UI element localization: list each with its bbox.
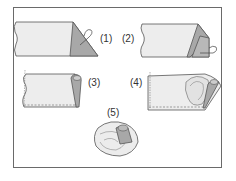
step-3-illustration [23, 70, 81, 107]
step-5-label: (5) [107, 108, 119, 118]
step-2-label: (2) [122, 34, 134, 44]
step-4-illustration [148, 72, 221, 110]
step-2-illustration [141, 24, 217, 57]
step-1-label: (1) [100, 34, 112, 44]
step-5-illustration [94, 122, 138, 156]
step-4-label: (4) [130, 78, 142, 88]
diagram-canvas [0, 0, 236, 181]
step-3-label: (3) [88, 78, 100, 88]
step-1-illustration [14, 22, 98, 56]
